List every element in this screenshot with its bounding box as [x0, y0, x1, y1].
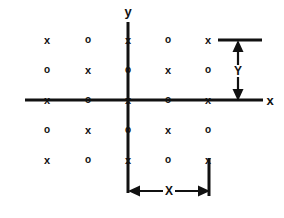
y-axis-label: y: [124, 5, 131, 18]
lattice-marker-o-r3c4: o: [205, 125, 211, 135]
lattice-marker-o-r2c1: o: [85, 95, 91, 105]
lattice-marker-o-r1c2: o: [125, 65, 131, 75]
lattice-marker-o-r3c2: o: [125, 125, 131, 135]
lattice-marker-o-r2c3: o: [165, 95, 171, 105]
lattice-marker-o-r0c1: o: [85, 35, 91, 45]
x-dimension-label: X: [163, 185, 175, 197]
diagram-vector-layer: [0, 0, 284, 218]
lattice-marker-o-r4c1: o: [85, 155, 91, 165]
lattice-marker-x-r0c0: x: [44, 35, 50, 46]
lattice-marker-x-r0c2: x: [125, 35, 131, 46]
y-dimension-arrowhead-up: [233, 40, 244, 52]
lattice-marker-o-r0c3: o: [165, 35, 171, 45]
lattice-diagram: xoxoxoxoxoxoxoxoxoxoxoxox x y Y X: [0, 0, 284, 218]
lattice-marker-x-r3c3: x: [165, 125, 171, 136]
lattice-marker-x-r2c2: x: [125, 95, 131, 106]
lattice-marker-x-r0c4: x: [205, 35, 211, 46]
lattice-marker-x-r1c3: x: [165, 65, 171, 76]
x-dimension-arrowhead-left: [128, 186, 140, 197]
lattice-marker-x-r1c1: x: [85, 65, 91, 76]
lattice-marker-o-r1c4: o: [205, 65, 211, 75]
x-axis-label: x: [266, 94, 273, 107]
lattice-marker-x-r4c0: x: [44, 155, 50, 166]
lattice-marker-x-r2c4: x: [205, 95, 211, 106]
lattice-marker-o-r3c0: o: [44, 125, 50, 135]
lattice-marker-o-r1c0: o: [44, 65, 50, 75]
lattice-marker-x-r2c0: x: [44, 95, 50, 106]
lattice-marker-x-r4c2: x: [125, 155, 131, 166]
lattice-marker-x-r4c4: x: [205, 155, 211, 166]
y-dimension-label: Y: [232, 65, 244, 77]
lattice-marker-x-r3c1: x: [85, 125, 91, 136]
lattice-marker-o-r4c3: o: [165, 155, 171, 165]
